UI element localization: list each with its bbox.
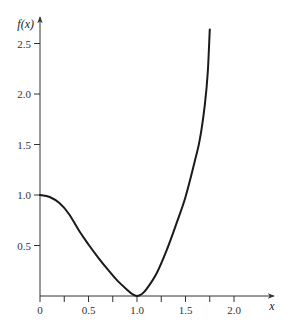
function-curve <box>40 29 210 296</box>
x-tick-label: 2.0 <box>227 304 241 316</box>
y-tick-label: 0.5 <box>17 240 31 252</box>
y-tick-label: 2.5 <box>17 38 31 50</box>
x-tick-label: 0 <box>37 304 43 316</box>
y-tick-label: 2.0 <box>17 88 31 100</box>
x-tick-label: 0.5 <box>82 304 96 316</box>
y-tick-label: 1.5 <box>17 139 31 151</box>
line-chart: 0.51.01.52.02.5 00.51.01.52.0 f(x) x <box>0 0 288 332</box>
x-tick-label: 1.0 <box>130 304 144 316</box>
y-axis-ticks: 0.51.01.52.02.5 <box>17 38 40 252</box>
y-axis-label: f(x) <box>17 17 34 31</box>
x-tick-label: 1.5 <box>179 304 193 316</box>
x-axis-label: x <box>268 299 275 313</box>
y-tick-label: 1.0 <box>17 189 31 201</box>
x-axis-ticks: 00.51.01.52.0 <box>37 296 241 316</box>
